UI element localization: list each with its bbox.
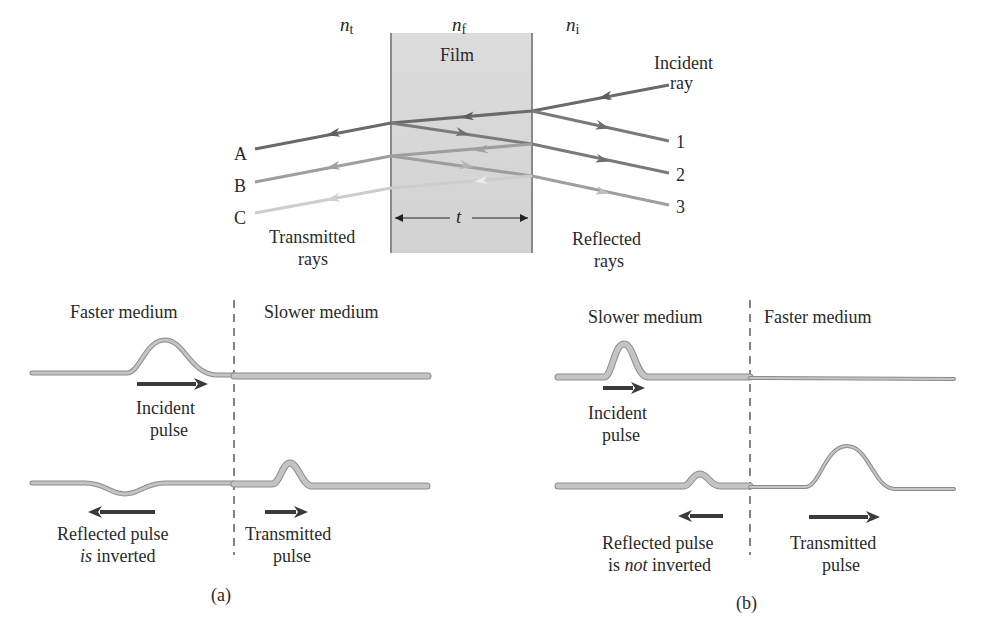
- ray-label-2: 2: [676, 164, 685, 186]
- reflected-rays-caption-2: rays: [594, 250, 624, 272]
- panel-a-caption: (a): [211, 584, 231, 606]
- medium-ni-label: ni: [566, 14, 579, 41]
- panel-b-caption: (b): [736, 592, 757, 614]
- panel-a-left-medium: Faster medium: [70, 301, 177, 323]
- panel-a-incident-2: pulse: [150, 419, 188, 441]
- panel-a-transmitted-2: pulse: [273, 545, 311, 567]
- panel-b-left-medium: Slower medium: [588, 306, 703, 328]
- ray-label-3: 3: [676, 196, 685, 218]
- incident-ray-label-2: ray: [670, 72, 693, 94]
- panel-a-incident-1: Incident: [136, 397, 195, 419]
- transmitted-rays-caption-2: rays: [298, 248, 328, 270]
- panel-b-incident-2: pulse: [602, 424, 640, 446]
- thickness-label: t: [456, 206, 461, 228]
- incident-ray-label-1: Incident: [654, 52, 713, 74]
- ray-label-a: A: [234, 143, 247, 165]
- ray-label-c: C: [234, 207, 246, 229]
- panel-b-incident-1: Incident: [588, 402, 647, 424]
- panel-b-reflected-2: is not inverted: [608, 554, 711, 576]
- medium-nt-label: nt: [340, 14, 353, 41]
- panel-b-right-medium: Faster medium: [764, 306, 871, 328]
- panel-b-transmitted-2: pulse: [822, 554, 860, 576]
- ray-label-b: B: [234, 175, 246, 197]
- panel-b-transmitted-1: Transmitted: [790, 532, 876, 554]
- medium-nf-label: nf: [452, 14, 466, 41]
- film-label: Film: [440, 44, 474, 66]
- transmitted-rays-caption-1: Transmitted: [269, 226, 355, 248]
- panel-b-reflected-1: Reflected pulse: [602, 532, 713, 554]
- reflected-rays-caption-1: Reflected: [572, 228, 641, 250]
- panel-a-right-medium: Slower medium: [264, 301, 379, 323]
- panel-a-transmitted-1: Transmitted: [245, 523, 331, 545]
- panel-a-graphics: [32, 300, 428, 555]
- film-slab: [391, 33, 532, 253]
- panel-a-reflected-1: Reflected pulse: [57, 523, 168, 545]
- panel-a-reflected-2: is inverted: [80, 545, 156, 567]
- ray-label-1: 1: [676, 131, 685, 153]
